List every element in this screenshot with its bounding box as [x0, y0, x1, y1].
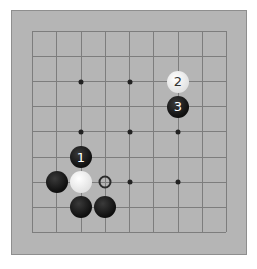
grid-line-vertical [202, 31, 203, 232]
star-point [79, 129, 84, 134]
black-stone: 1 [70, 146, 92, 168]
black-stone: 3 [167, 96, 189, 118]
star-point [127, 180, 132, 185]
star-point [127, 79, 132, 84]
star-point [127, 129, 132, 134]
black-stone [94, 196, 116, 218]
grid-line-vertical [226, 31, 227, 232]
white-stone: 2 [167, 71, 189, 93]
grid-line-horizontal [32, 157, 226, 158]
white-stone [70, 171, 92, 193]
grid-line-horizontal [32, 232, 226, 233]
circle-marker-icon [99, 176, 112, 189]
black-stone [70, 196, 92, 218]
black-stone [46, 171, 68, 193]
grid-line-vertical [153, 31, 154, 232]
star-point [176, 129, 181, 134]
star-point [176, 180, 181, 185]
grid-line-horizontal [32, 207, 226, 208]
star-point [79, 79, 84, 84]
